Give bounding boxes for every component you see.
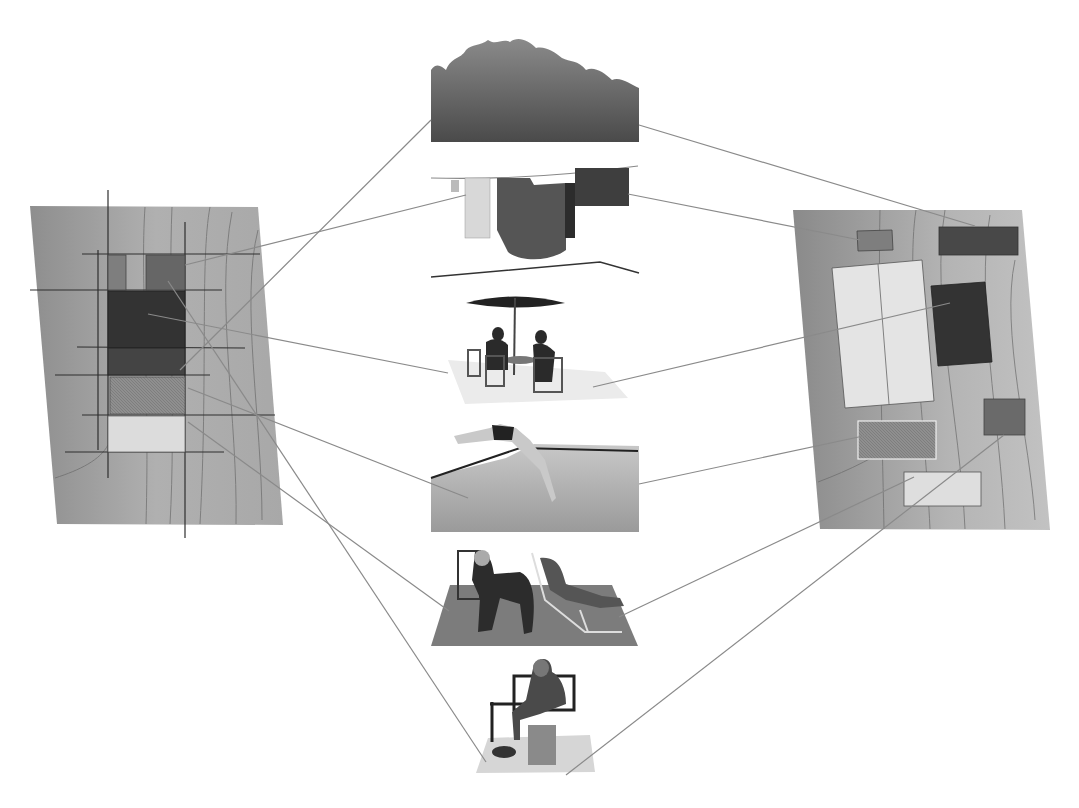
- left-site-plan: [30, 190, 283, 538]
- right-block-R2: [939, 227, 1018, 255]
- right-block-R7: [904, 472, 981, 506]
- left-block-L2: [146, 255, 185, 290]
- laundry-pants: [465, 178, 490, 238]
- reader-head: [533, 659, 549, 677]
- lawn-mat: [431, 585, 638, 646]
- sunbather-1-head: [474, 550, 490, 566]
- left-block-L1: [108, 255, 126, 290]
- vignette-reader-bench: [476, 659, 595, 773]
- left-block-L4: [108, 348, 185, 375]
- table-top: [504, 356, 536, 364]
- vignette-deck-chairs: [431, 550, 638, 646]
- separator-line: [431, 262, 639, 277]
- right-block-R5: [858, 421, 936, 459]
- vegetation-image: [431, 39, 639, 142]
- laundry-small-item: [451, 180, 459, 192]
- vignette-clothesline: [431, 166, 638, 259]
- vignette-table-umbrella: [448, 297, 628, 405]
- right-block-R6: [984, 399, 1025, 435]
- connector-V5-R7: [619, 477, 914, 617]
- laundry-towel: [497, 178, 566, 259]
- vignette-diving-pool: [431, 424, 639, 532]
- laundry-dark-shirt: [565, 183, 575, 238]
- left-block-L5: [110, 377, 185, 414]
- left-block-L6: [108, 416, 185, 452]
- right-block-R1: [857, 230, 893, 251]
- laundry-checkered-cloth: [575, 168, 629, 206]
- vignette-vegetation: [431, 39, 639, 142]
- planter-bowl: [492, 746, 516, 758]
- right-block-R3: [832, 260, 934, 408]
- right-block-R4: [931, 282, 992, 366]
- right-site-plan: [793, 210, 1050, 530]
- side-table: [528, 725, 556, 765]
- diagram-canvas: [0, 0, 1079, 808]
